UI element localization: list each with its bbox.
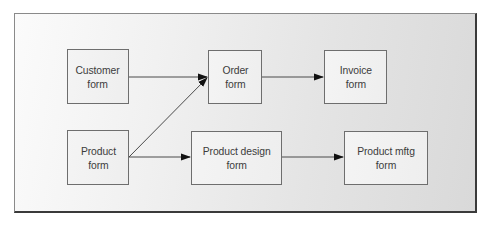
node-invoice-form: Invoice form <box>324 50 387 104</box>
node-label: Product form <box>80 144 115 172</box>
node-label: Order form <box>222 63 248 91</box>
node-label: Customer form <box>76 63 120 91</box>
node-label: Product mftg form <box>357 144 415 172</box>
node-customer-form: Customer form <box>67 49 129 104</box>
node-label: Product design form <box>203 144 271 172</box>
node-product-form: Product form <box>67 130 129 185</box>
node-product-design-form: Product design form <box>191 131 282 185</box>
node-order-form: Order form <box>208 50 262 104</box>
node-product-mftg-form: Product mftg form <box>344 131 428 185</box>
node-label: Invoice form <box>339 63 371 91</box>
